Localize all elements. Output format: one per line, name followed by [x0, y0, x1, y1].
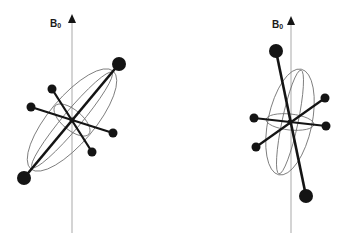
orientation-diagram — [0, 0, 344, 241]
small-atom — [109, 129, 118, 138]
small-atom — [27, 103, 36, 112]
center-atom — [288, 120, 293, 125]
arrow-up-icon — [68, 14, 76, 23]
large-atom — [299, 189, 313, 203]
large-atom — [17, 171, 31, 185]
large-atom — [112, 57, 126, 71]
large-atom — [269, 44, 283, 58]
arrow-up-icon — [287, 16, 295, 25]
small-atom — [252, 143, 261, 152]
small-atom — [321, 94, 330, 103]
small-atom — [48, 85, 57, 94]
small-atom — [250, 114, 259, 123]
field-label-right: B0 — [272, 20, 283, 31]
center-atom — [70, 118, 75, 123]
small-atom — [88, 148, 97, 157]
small-atom — [322, 122, 331, 131]
field-label-left: B0 — [50, 19, 61, 30]
